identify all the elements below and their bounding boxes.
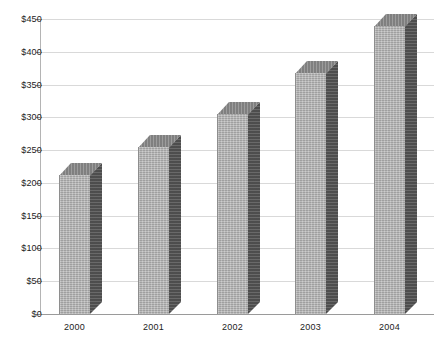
y-axis-tick-label: $250 bbox=[21, 145, 42, 155]
bar-side-face bbox=[169, 135, 181, 314]
bar-2002 bbox=[217, 102, 260, 314]
bar-2000 bbox=[59, 163, 102, 314]
bar-front-face bbox=[59, 175, 90, 314]
y-axis-tick-label: $100 bbox=[21, 243, 42, 253]
x-axis-tick-label: 2000 bbox=[47, 322, 102, 332]
bar-side-face bbox=[90, 163, 102, 314]
y-axis-tick-label: $400 bbox=[21, 47, 42, 57]
bar-2001 bbox=[138, 135, 181, 314]
bar-side-face bbox=[405, 14, 417, 314]
x-axis-tick-label: 2002 bbox=[205, 322, 260, 332]
bar-front-face bbox=[374, 26, 405, 314]
y-axis-tick-label: $50 bbox=[26, 276, 42, 286]
bar-front-face bbox=[138, 147, 169, 314]
bar-chart: $0$50$100$150$200$250$300$350$400$450 20… bbox=[0, 0, 434, 341]
bar-front-face bbox=[217, 114, 248, 314]
bar-side-face bbox=[248, 102, 260, 314]
bar-side-face bbox=[326, 61, 338, 314]
y-axis-tick-label: $450 bbox=[21, 14, 42, 24]
plot-area: $0$50$100$150$200$250$300$350$400$450 20… bbox=[0, 0, 434, 341]
y-axis-tick-label: $300 bbox=[21, 112, 42, 122]
x-axis-tick-label: 2004 bbox=[362, 322, 417, 332]
y-axis-tick-label: $200 bbox=[21, 178, 42, 188]
bar-2004 bbox=[374, 14, 417, 314]
x-axis-tick-label: 2001 bbox=[126, 322, 181, 332]
x-axis-tick-label: 2003 bbox=[283, 322, 338, 332]
bar-front-face bbox=[295, 73, 326, 314]
y-axis-tick-label: $0 bbox=[32, 309, 42, 319]
gridline bbox=[40, 314, 434, 315]
y-axis-line bbox=[40, 19, 41, 315]
bar-2003 bbox=[295, 61, 338, 314]
y-axis-tick-label: $350 bbox=[21, 80, 42, 90]
y-axis-tick-label: $150 bbox=[21, 211, 42, 221]
